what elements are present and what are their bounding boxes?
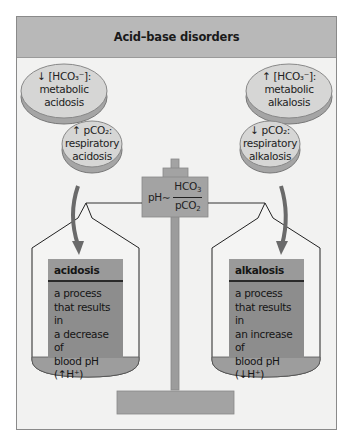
formula-denominator: pCO: [175, 199, 196, 211]
disc-line: acidosis: [26, 96, 102, 109]
card-line: that results in: [235, 301, 298, 328]
alkalosis-card-body: a process that results in an increase of…: [229, 282, 304, 387]
disc-line: [HCO₃⁻]:: [273, 70, 316, 82]
scale-base: [117, 391, 234, 414]
acidosis-card-title: acidosis: [48, 259, 123, 282]
formula-fraction: HCO3 pCO2: [173, 180, 202, 215]
disc-line: alkalosis: [251, 96, 327, 109]
disc-label-metabolic-acidosis: ↓ [HCO₃⁻]: metabolic acidosis: [26, 70, 102, 109]
acidosis-card-body: a process that results in a decrease of …: [48, 282, 123, 387]
disc-label-respiratory-acidosis: ↑ pCO₂: respiratory acidosis: [58, 124, 126, 163]
card-line: blood pH (↑H⁺): [54, 355, 117, 382]
disc-line: alkalosis: [236, 150, 304, 163]
acidosis-card: acidosis a process that results in a dec…: [48, 259, 123, 358]
disc-line: respiratory: [58, 137, 126, 150]
card-line: an increase of: [235, 328, 298, 355]
formula-numerator-sub: 3: [197, 186, 201, 194]
up-arrow-icon: ↑: [72, 124, 81, 136]
up-arrow-icon: ↑: [262, 70, 271, 82]
alkalosis-card: alkalosis a process that results in an i…: [229, 259, 304, 358]
disc-line: metabolic: [251, 83, 327, 96]
disc-line: pCO₂:: [84, 124, 113, 136]
card-line: blood pH (↓H⁺): [235, 355, 298, 382]
formula-denominator-sub: 2: [196, 205, 200, 213]
scale-pole: [171, 216, 179, 390]
disc-line: metabolic: [26, 83, 102, 96]
formula-numerator: HCO: [174, 180, 197, 192]
card-line: that results in: [54, 301, 117, 328]
ph-formula: pH∼ HCO3 pCO2: [142, 177, 208, 217]
formula-lhs: pH∼: [148, 191, 170, 203]
card-line: a decrease of: [54, 328, 117, 355]
disc-line: acidosis: [58, 150, 126, 163]
disc-line: [HCO₃⁻]:: [48, 70, 91, 82]
disc-label-respiratory-alkalosis: ↓ pCO₂: respiratory alkalosis: [236, 124, 304, 163]
down-arrow-icon: ↓: [250, 124, 259, 136]
alkalosis-card-title: alkalosis: [229, 259, 304, 282]
card-line: a process: [235, 287, 298, 301]
disc-line: pCO₂:: [262, 124, 291, 136]
disc-label-metabolic-alkalosis: ↑ [HCO₃⁻]: metabolic alkalosis: [251, 70, 327, 109]
card-line: a process: [54, 287, 117, 301]
disc-line: respiratory: [236, 137, 304, 150]
down-arrow-icon: ↓: [37, 70, 46, 82]
